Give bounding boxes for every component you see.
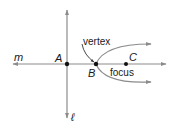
point-C (124, 62, 128, 66)
label-B: B (88, 67, 95, 79)
focus-label: focus (110, 67, 134, 78)
vertex-label: vertex (83, 36, 110, 47)
label-l: ℓ (70, 111, 75, 123)
parabola-diagram: m ℓ A B C vertex focus (0, 0, 178, 126)
label-m: m (14, 51, 23, 63)
label-C: C (129, 51, 137, 63)
point-B (94, 62, 98, 66)
label-A: A (54, 52, 62, 64)
point-A (65, 62, 69, 66)
